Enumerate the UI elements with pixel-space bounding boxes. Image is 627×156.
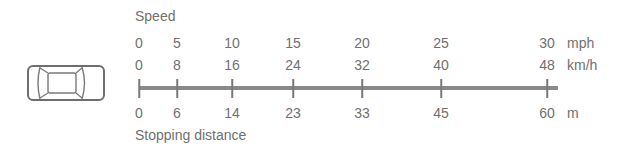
mph-tick-label: 25 (433, 35, 449, 51)
mph-tick-label: 30 (539, 35, 555, 51)
stopping-distance-label: Stopping distance (135, 127, 246, 143)
meters-tick-label: 33 (354, 105, 370, 121)
kmh-tick-label: 32 (354, 57, 370, 73)
kmh-tick-label: 24 (285, 57, 301, 73)
kmh-unit-label: km/h (567, 57, 597, 73)
meters-tick-label: 23 (285, 105, 301, 121)
scale-tick (138, 79, 140, 98)
scale-tick (176, 79, 178, 98)
mph-tick-label: 10 (224, 35, 240, 51)
scale-tick (361, 79, 363, 98)
mph-tick-label: 0 (135, 35, 143, 51)
meters-tick-label: 6 (173, 105, 181, 121)
meters-tick-label: 60 (539, 105, 555, 121)
kmh-tick-label: 48 (539, 57, 555, 73)
kmh-tick-label: 8 (173, 57, 181, 73)
meters-tick-label: 14 (224, 105, 240, 121)
scale-tick (546, 79, 548, 98)
car-top-view-icon (26, 64, 106, 106)
mph-tick-label: 15 (285, 35, 301, 51)
mph-unit-label: mph (567, 35, 594, 51)
scale-tick (440, 79, 442, 98)
scale-tick (292, 79, 294, 98)
mph-tick-label: 5 (173, 35, 181, 51)
meters-tick-label: 45 (433, 105, 449, 121)
kmh-tick-label: 0 (135, 57, 143, 73)
kmh-tick-label: 16 (224, 57, 240, 73)
distance-scale-bar (139, 86, 558, 90)
mph-tick-label: 20 (354, 35, 370, 51)
speed-title: Speed (135, 8, 175, 24)
meters-tick-label: 0 (135, 105, 143, 121)
meters-unit-label: m (567, 105, 579, 121)
kmh-tick-label: 40 (433, 57, 449, 73)
scale-tick (231, 79, 233, 98)
